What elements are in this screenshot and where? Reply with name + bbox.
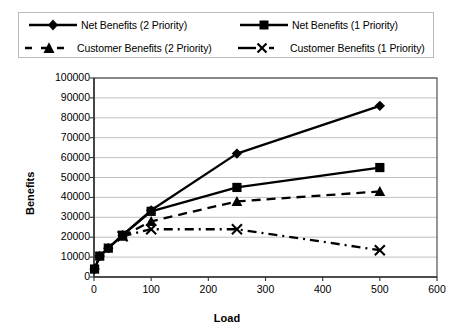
series-3	[118, 224, 385, 255]
series-line	[123, 229, 380, 250]
series-line	[95, 168, 380, 269]
data-point-marker	[104, 244, 113, 253]
plot-area	[0, 0, 454, 333]
data-point-marker	[90, 264, 99, 273]
data-point-marker	[375, 101, 385, 111]
chart-container: Net Benefits (2 Priority) Net Benefits (…	[0, 0, 454, 333]
series-line	[123, 191, 380, 236]
data-point-marker	[147, 207, 156, 216]
data-point-marker	[232, 183, 241, 192]
data-point-marker	[95, 252, 104, 261]
data-point-marker	[375, 163, 384, 172]
series-2	[117, 186, 385, 241]
